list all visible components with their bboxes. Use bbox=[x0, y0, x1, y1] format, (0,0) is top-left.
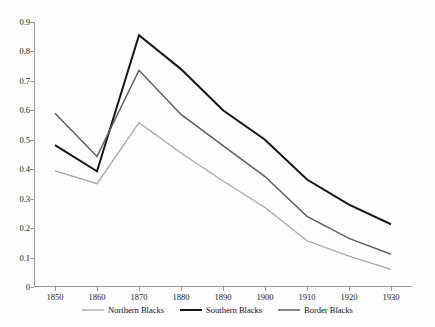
line-chart: 00.10.20.30.40.50.60.70.80.9 18501860187… bbox=[0, 0, 435, 327]
y-axis-tick-label: 0.8 bbox=[4, 47, 30, 56]
x-axis-tick-label: 1900 bbox=[245, 293, 285, 302]
x-axis-tick bbox=[97, 287, 98, 291]
y-axis-tick-label: 0.2 bbox=[4, 224, 30, 233]
x-axis-tick bbox=[307, 287, 308, 291]
y-axis-tick-label: 0.4 bbox=[4, 165, 30, 174]
x-axis-tick bbox=[181, 287, 182, 291]
legend-item[interactable]: Border Blacks bbox=[278, 306, 353, 315]
y-axis-tick-label: 0.6 bbox=[4, 106, 30, 115]
legend: Northern BlacksSouthern BlacksBorder Bla… bbox=[0, 306, 435, 315]
x-axis-tick bbox=[349, 287, 350, 291]
x-axis-tick bbox=[55, 287, 56, 291]
x-axis-tick-label: 1920 bbox=[329, 293, 369, 302]
legend-line-swatch bbox=[180, 307, 202, 313]
plot-area bbox=[34, 22, 412, 287]
x-axis-tick-label: 1850 bbox=[35, 293, 75, 302]
x-axis-tick-label: 1910 bbox=[287, 293, 327, 302]
legend-item[interactable]: Southern Blacks bbox=[180, 306, 262, 315]
legend-line-swatch bbox=[82, 307, 104, 313]
y-axis-tick-label: 0.9 bbox=[4, 18, 30, 27]
legend-label: Southern Blacks bbox=[206, 306, 262, 315]
x-axis-tick-label: 1890 bbox=[203, 293, 243, 302]
x-axis-tick bbox=[391, 287, 392, 291]
x-axis-tick bbox=[223, 287, 224, 291]
x-axis-tick-label: 1930 bbox=[371, 293, 411, 302]
y-axis-tick bbox=[30, 287, 34, 288]
y-axis-tick-label: 0.1 bbox=[4, 253, 30, 262]
series-line bbox=[55, 70, 391, 254]
y-axis-tick-label: 0.7 bbox=[4, 77, 30, 86]
legend-label: Northern Blacks bbox=[108, 306, 164, 315]
y-axis-tick-label: 0.5 bbox=[4, 136, 30, 145]
series-line bbox=[55, 35, 391, 224]
legend-label: Border Blacks bbox=[304, 306, 353, 315]
y-axis-tick-label: 0.3 bbox=[4, 194, 30, 203]
x-axis-tick-label: 1880 bbox=[161, 293, 201, 302]
series-lines bbox=[34, 22, 412, 287]
x-axis-tick-label: 1870 bbox=[119, 293, 159, 302]
x-axis-tick-label: 1860 bbox=[77, 293, 117, 302]
legend-line-swatch bbox=[278, 307, 300, 313]
legend-item[interactable]: Northern Blacks bbox=[82, 306, 164, 315]
x-axis-tick bbox=[139, 287, 140, 291]
x-axis-tick bbox=[265, 287, 266, 291]
y-axis-tick-label: 0 bbox=[4, 283, 30, 292]
